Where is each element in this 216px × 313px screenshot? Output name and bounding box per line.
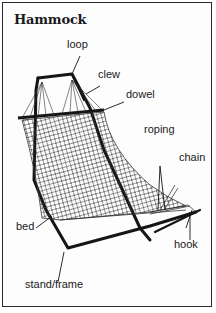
label-bed: bed bbox=[16, 220, 34, 232]
label-dowel: dowel bbox=[126, 88, 155, 100]
label-chain: chain bbox=[179, 151, 205, 163]
label-stand-frame: stand/frame bbox=[25, 278, 83, 290]
label-hook: hook bbox=[174, 238, 198, 250]
label-clew: clew bbox=[98, 68, 120, 80]
label-loop: loop bbox=[67, 38, 88, 50]
label-roping: roping bbox=[144, 123, 175, 135]
